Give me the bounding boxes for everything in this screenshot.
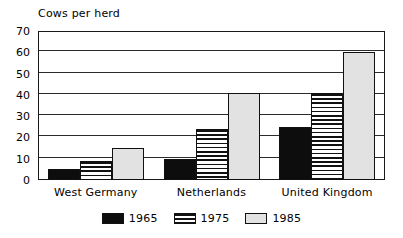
bar — [196, 129, 228, 180]
legend-item[interactable]: 1985 — [245, 212, 301, 225]
bar — [80, 161, 112, 180]
y-tick-label: 20 — [16, 132, 30, 143]
x-axis: West GermanyNetherlandsUnited Kingdom — [38, 186, 385, 202]
legend-label: 1965 — [129, 212, 158, 225]
bar-chart: Cows per herd 010203040506070 West Germa… — [0, 0, 403, 238]
gridline-50 — [39, 72, 384, 73]
y-tick-label: 70 — [16, 26, 30, 37]
legend-swatch-1975 — [174, 213, 196, 224]
legend-swatch-1985 — [245, 213, 267, 224]
y-tick-label: 40 — [16, 89, 30, 100]
x-tick-label: West Germany — [54, 186, 138, 199]
legend-swatch-1965 — [102, 213, 124, 224]
bar — [112, 148, 144, 180]
legend-label: 1975 — [201, 212, 230, 225]
chart-legend: 196519751985 — [0, 212, 403, 225]
y-tick-label: 60 — [16, 47, 30, 58]
gridline-60 — [39, 50, 384, 51]
y-axis: 010203040506070 — [0, 31, 34, 180]
bar — [311, 93, 343, 180]
bar — [164, 159, 196, 180]
legend-item[interactable]: 1965 — [102, 212, 158, 225]
y-tick-label: 50 — [16, 68, 30, 79]
y-tick-label: 0 — [23, 175, 30, 186]
chart-title: Cows per herd — [38, 7, 120, 20]
bar — [48, 169, 80, 180]
bar — [228, 93, 260, 180]
legend-item[interactable]: 1975 — [174, 212, 230, 225]
bar — [279, 127, 311, 180]
y-tick-label: 10 — [16, 153, 30, 164]
x-tick-label: Netherlands — [177, 186, 246, 199]
bar — [343, 52, 375, 180]
legend-label: 1985 — [272, 212, 301, 225]
y-tick-label: 30 — [16, 111, 30, 122]
x-tick-label: United Kingdom — [282, 186, 373, 199]
